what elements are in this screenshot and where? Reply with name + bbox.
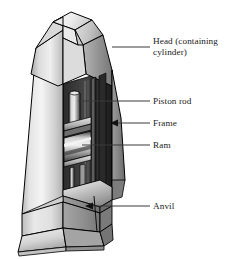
label-anvil: Anvil	[153, 201, 174, 212]
label-piston-rod: Piston rod	[153, 96, 191, 107]
label-frame: Frame	[153, 118, 177, 129]
frame-right-face	[112, 70, 125, 200]
forging-hammer-cutaway-figure: Head (containing cylinder) Piston rod Fr…	[0, 0, 239, 259]
frame-left-face	[22, 30, 63, 214]
label-ram: Ram	[153, 140, 171, 151]
label-head: Head (containing cylinder)	[153, 36, 218, 57]
